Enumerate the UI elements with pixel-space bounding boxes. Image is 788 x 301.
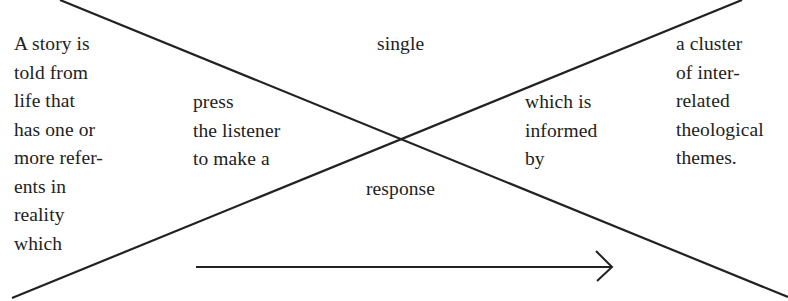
- left-text-block: A story is told from life that has one o…: [14, 30, 103, 258]
- single-label: single: [377, 30, 424, 59]
- center-left-text-line: the listener: [193, 117, 280, 146]
- right-text-line: theological: [676, 116, 764, 145]
- center-left-text-block: press the listener to make a: [193, 88, 280, 174]
- diagram-canvas: A story is told from life that has one o…: [0, 0, 788, 301]
- right-text-line: themes.: [676, 144, 764, 173]
- left-text-line: told from: [14, 59, 103, 88]
- bottom-center-label: response: [366, 175, 435, 204]
- right-text-line: of inter-: [676, 59, 764, 88]
- left-text-line: reality: [14, 201, 103, 230]
- left-text-line: which: [14, 230, 103, 259]
- center-left-text-line: press: [193, 88, 280, 117]
- left-text-line: ents in: [14, 173, 103, 202]
- center-right-text-line: by: [525, 145, 597, 174]
- center-left-text-line: to make a: [193, 145, 280, 174]
- response-label: response: [366, 175, 435, 204]
- right-text-line: related: [676, 87, 764, 116]
- center-right-text-block: which is informed by: [525, 88, 597, 174]
- left-text-line: has one or: [14, 116, 103, 145]
- right-arrow-icon: [196, 251, 612, 281]
- center-right-text-line: which is: [525, 88, 597, 117]
- right-text-block: a cluster of inter- related theological …: [676, 30, 764, 173]
- right-text-line: a cluster: [676, 30, 764, 59]
- top-center-label: single: [377, 30, 424, 59]
- left-text-line: A story is: [14, 30, 103, 59]
- left-text-line: more refer-: [14, 144, 103, 173]
- left-text-line: life that: [14, 87, 103, 116]
- center-right-text-line: informed: [525, 117, 597, 146]
